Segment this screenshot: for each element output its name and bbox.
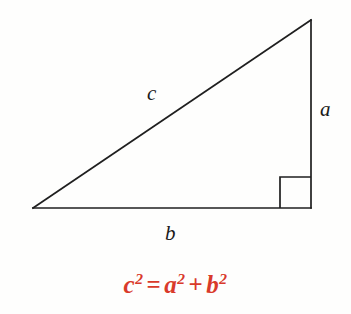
triangle-diagram (0, 0, 351, 314)
triangle-side-c-hypotenuse (33, 20, 311, 208)
pythagorean-formula: c2=a2+b2 (0, 272, 351, 297)
formula-term-c: c2 (124, 271, 144, 298)
horizontal-leg-label-b: b (165, 223, 176, 244)
formula-equals-sign: = (143, 271, 164, 298)
right-angle-marker-icon (280, 177, 311, 208)
vertical-leg-label-a: a (320, 99, 331, 120)
formula-base-c: c (124, 271, 136, 298)
formula-plus-sign: + (185, 271, 206, 298)
hypotenuse-label-c: c (147, 83, 156, 104)
formula-base-b: b (206, 271, 219, 298)
pythagorean-theorem-figure: c a b c2=a2+b2 (0, 0, 351, 314)
formula-base-a: a (164, 271, 177, 298)
formula-exponent-b: 2 (219, 270, 227, 287)
formula-term-b: b2 (206, 271, 227, 298)
formula-term-a: a2 (164, 271, 185, 298)
